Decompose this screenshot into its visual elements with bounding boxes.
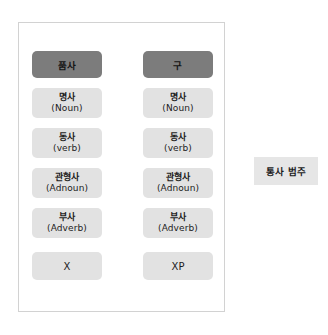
side-label-syntactic-category[interactable]: 통사 범주 (254, 157, 318, 185)
category-panel: 품사 명사 (Noun) 동사 (verb) 관형사 (Adnoun) 부사 (… (18, 22, 225, 312)
pill-label-kr: 관형사 (166, 172, 190, 183)
pill-label-kr: 동사 (59, 132, 75, 143)
pill-label-en: (verb) (53, 143, 81, 154)
column-phrase: 구 명사 (Noun) 동사 (verb) 관형사 (Adnoun) 부사 (A… (143, 51, 213, 290)
column-part-of-speech: 품사 명사 (Noun) 동사 (verb) 관형사 (Adnoun) 부사 (… (32, 51, 102, 290)
pill-xp-phrase[interactable]: XP (143, 252, 213, 280)
pill-label-en: (Adnoun) (46, 183, 88, 194)
pill-adverb-pos[interactable]: 부사 (Adverb) (32, 208, 102, 238)
pill-label-en: (Noun) (162, 103, 193, 114)
pill-label-en: (verb) (164, 143, 192, 154)
pill-label-en: (Noun) (51, 103, 82, 114)
pill-adnoun-pos[interactable]: 관형사 (Adnoun) (32, 168, 102, 198)
pill-label-en: (Adverb) (47, 223, 87, 234)
pill-label-kr: 부사 (59, 212, 75, 223)
pill-noun-phrase[interactable]: 명사 (Noun) (143, 88, 213, 118)
pill-adverb-phrase[interactable]: 부사 (Adverb) (143, 208, 213, 238)
pill-verb-pos[interactable]: 동사 (verb) (32, 128, 102, 158)
diagram-root: 품사 명사 (Noun) 동사 (verb) 관형사 (Adnoun) 부사 (… (0, 0, 328, 335)
pill-label-kr: 동사 (170, 132, 186, 143)
pill-label-kr: 관형사 (55, 172, 79, 183)
pill-label-en: (Adverb) (158, 223, 198, 234)
columns-container: 품사 명사 (Noun) 동사 (verb) 관형사 (Adnoun) 부사 (… (32, 51, 213, 290)
pill-adnoun-phrase[interactable]: 관형사 (Adnoun) (143, 168, 213, 198)
pill-x-pos[interactable]: X (32, 252, 102, 280)
pill-label-kr: 부사 (170, 212, 186, 223)
pill-label-en: (Adnoun) (157, 183, 199, 194)
pill-noun-pos[interactable]: 명사 (Noun) (32, 88, 102, 118)
column-header-phrase[interactable]: 구 (143, 51, 213, 78)
column-header-part-of-speech[interactable]: 품사 (32, 51, 102, 78)
pill-label-kr: 명사 (59, 92, 75, 103)
pill-verb-phrase[interactable]: 동사 (verb) (143, 128, 213, 158)
pill-label-kr: 명사 (170, 92, 186, 103)
